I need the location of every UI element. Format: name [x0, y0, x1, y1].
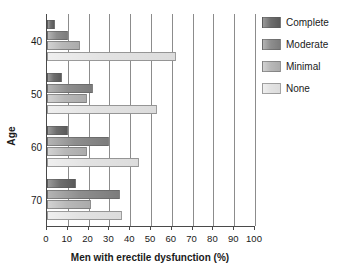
x-tick-mark: [150, 226, 151, 230]
x-tick-label: 20: [82, 233, 93, 244]
legend-label: Minimal: [286, 61, 320, 72]
x-tick-label: 0: [43, 233, 48, 244]
x-tick-mark: [254, 226, 255, 230]
legend-swatch: [262, 17, 281, 28]
x-tick-label: 40: [124, 233, 135, 244]
x-tick-label: 70: [186, 233, 197, 244]
x-tick-label: 80: [207, 233, 218, 244]
legend-item: Moderate: [262, 36, 340, 53]
x-tick-label: 60: [166, 233, 177, 244]
bar: [47, 105, 157, 114]
x-tick-mark: [88, 226, 89, 230]
bar: [47, 211, 122, 220]
x-axis-title: Men with erectile dysfunction (%): [46, 252, 254, 263]
y-tick-label: 40: [18, 35, 42, 46]
bar: [47, 52, 176, 61]
x-tick-label: 90: [228, 233, 239, 244]
bar: [47, 73, 62, 82]
x-tick-mark: [129, 226, 130, 230]
x-tick-label: 30: [103, 233, 114, 244]
legend-swatch: [262, 61, 281, 72]
bar: [47, 179, 76, 188]
x-axis-line: 0102030405060708090100: [46, 226, 254, 227]
x-tick-mark: [46, 226, 47, 230]
legend-item: Complete: [262, 14, 340, 31]
x-tick-mark: [171, 226, 172, 230]
x-tick-label: 10: [62, 233, 73, 244]
bar: [47, 31, 68, 40]
x-tick-label: 100: [246, 233, 262, 244]
bar: [47, 84, 93, 93]
bar-series-container: [47, 14, 255, 226]
legend-item: None: [262, 80, 340, 97]
bar: [47, 126, 68, 135]
bar: [47, 158, 139, 167]
bar: [47, 20, 55, 29]
y-axis-tick-labels: 40506070: [14, 14, 42, 226]
legend-swatch: [262, 83, 281, 94]
legend-label: None: [286, 83, 310, 94]
y-tick-label: 70: [18, 194, 42, 205]
legend-label: Moderate: [286, 39, 328, 50]
bar: [47, 190, 120, 199]
chart-figure: Age 40506070 0102030405060708090100 Men …: [0, 0, 340, 272]
gridline: [255, 14, 256, 226]
x-tick-mark: [67, 226, 68, 230]
legend-label: Complete: [286, 17, 329, 28]
x-tick-label: 50: [145, 233, 156, 244]
bar: [47, 94, 87, 103]
legend-swatch: [262, 39, 281, 50]
legend-item: Minimal: [262, 58, 340, 75]
y-tick-label: 50: [18, 88, 42, 99]
x-tick-mark: [212, 226, 213, 230]
x-tick-mark: [192, 226, 193, 230]
legend: CompleteModerateMinimalNone: [262, 14, 340, 102]
x-tick-mark: [233, 226, 234, 230]
y-tick-label: 60: [18, 141, 42, 152]
bar: [47, 200, 91, 209]
bar: [47, 41, 80, 50]
x-tick-mark: [108, 226, 109, 230]
plot-area: [46, 14, 255, 226]
bar: [47, 137, 109, 146]
bar: [47, 147, 87, 156]
